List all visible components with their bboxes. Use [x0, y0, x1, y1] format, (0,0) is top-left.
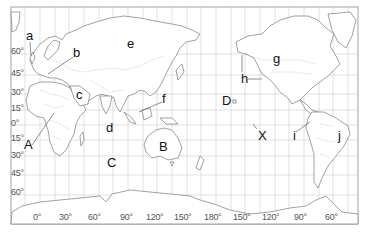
lon-label-90E: 90° — [120, 213, 133, 222]
marker-j: j — [338, 129, 341, 142]
lon-label-60E: 60° — [88, 213, 101, 222]
lat-label-15N: 15° — [11, 104, 24, 113]
lon-label-30E: 30° — [59, 213, 72, 222]
lat-label-30N: 30° — [11, 88, 24, 97]
lon-label-0: 0° — [33, 213, 41, 222]
lat-label-60N: 60° — [11, 47, 24, 56]
marker-B: B — [159, 140, 168, 153]
lon-label-180: 180° — [204, 213, 221, 222]
marker-b: b — [73, 46, 80, 59]
marker-h: h — [241, 72, 248, 85]
lat-label-45N: 45° — [11, 69, 24, 78]
lat-label-45S: 45° — [11, 169, 24, 178]
lat-label-60S: 60° — [11, 188, 24, 197]
world-map — [0, 0, 367, 233]
lon-label-120E: 120° — [146, 213, 163, 222]
lon-label-150E: 150° — [174, 213, 191, 222]
marker-X: X — [258, 129, 267, 142]
marker-g: g — [273, 52, 280, 65]
marker-i: i — [293, 129, 296, 142]
lon-label-60W: 60° — [325, 213, 338, 222]
lon-label-120W: 120° — [262, 213, 279, 222]
marker-a: a — [26, 29, 33, 42]
lat-label-0: 0° — [11, 119, 19, 128]
marker-e: e — [127, 37, 134, 50]
marker-f: f — [162, 92, 166, 105]
lat-label-30S: 30° — [11, 151, 24, 160]
marker-A: A — [24, 138, 33, 151]
marker-D: D — [222, 94, 231, 107]
lon-label-150W: 150° — [233, 213, 250, 222]
lat-label-15S: 15° — [11, 134, 24, 143]
marker-C: C — [107, 156, 116, 169]
marker-c: c — [76, 88, 83, 101]
lon-label-90W: 90° — [294, 213, 307, 222]
marker-d: d — [106, 121, 113, 134]
feature-D-island — [233, 100, 236, 103]
